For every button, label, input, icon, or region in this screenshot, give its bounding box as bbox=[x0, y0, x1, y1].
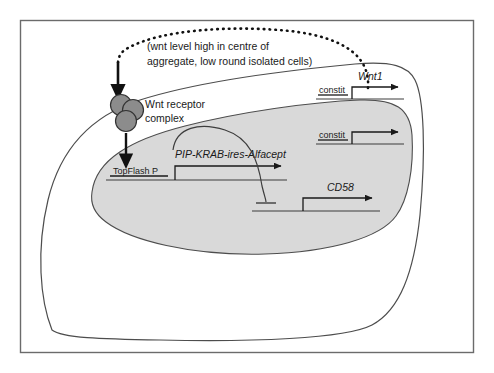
wnt1-promoter-label: constit bbox=[319, 85, 346, 95]
wnt1-gene-label: Wnt1 bbox=[358, 70, 383, 82]
receptor-label-line2: complex bbox=[145, 112, 185, 124]
annotation-line1: (wnt level high in centre of bbox=[147, 40, 269, 52]
cd58-gene-label: CD58 bbox=[327, 181, 354, 193]
cd2-promoter-label: constit bbox=[319, 130, 346, 140]
receptor-circle-3 bbox=[116, 111, 137, 132]
topflash-promoter-label: TopFlash P bbox=[113, 166, 158, 176]
annotation-line2: aggregate, low round isolated cells) bbox=[147, 55, 312, 67]
figure-container: (wnt level high in centre of aggregate, … bbox=[0, 0, 494, 373]
pip-krab-gene-label: PIP-KRAB-ires-Alfacept bbox=[175, 148, 287, 160]
diagram-canvas: (wnt level high in centre of aggregate, … bbox=[0, 0, 494, 373]
receptor-label-line1: Wnt receptor bbox=[145, 98, 206, 110]
